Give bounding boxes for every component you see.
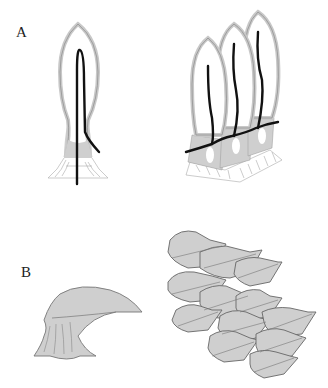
single-papilla (48, 24, 108, 184)
single-scale (34, 287, 142, 359)
diagram-canvas (0, 0, 328, 388)
scale-array (168, 231, 316, 378)
papilla-row (186, 12, 282, 182)
